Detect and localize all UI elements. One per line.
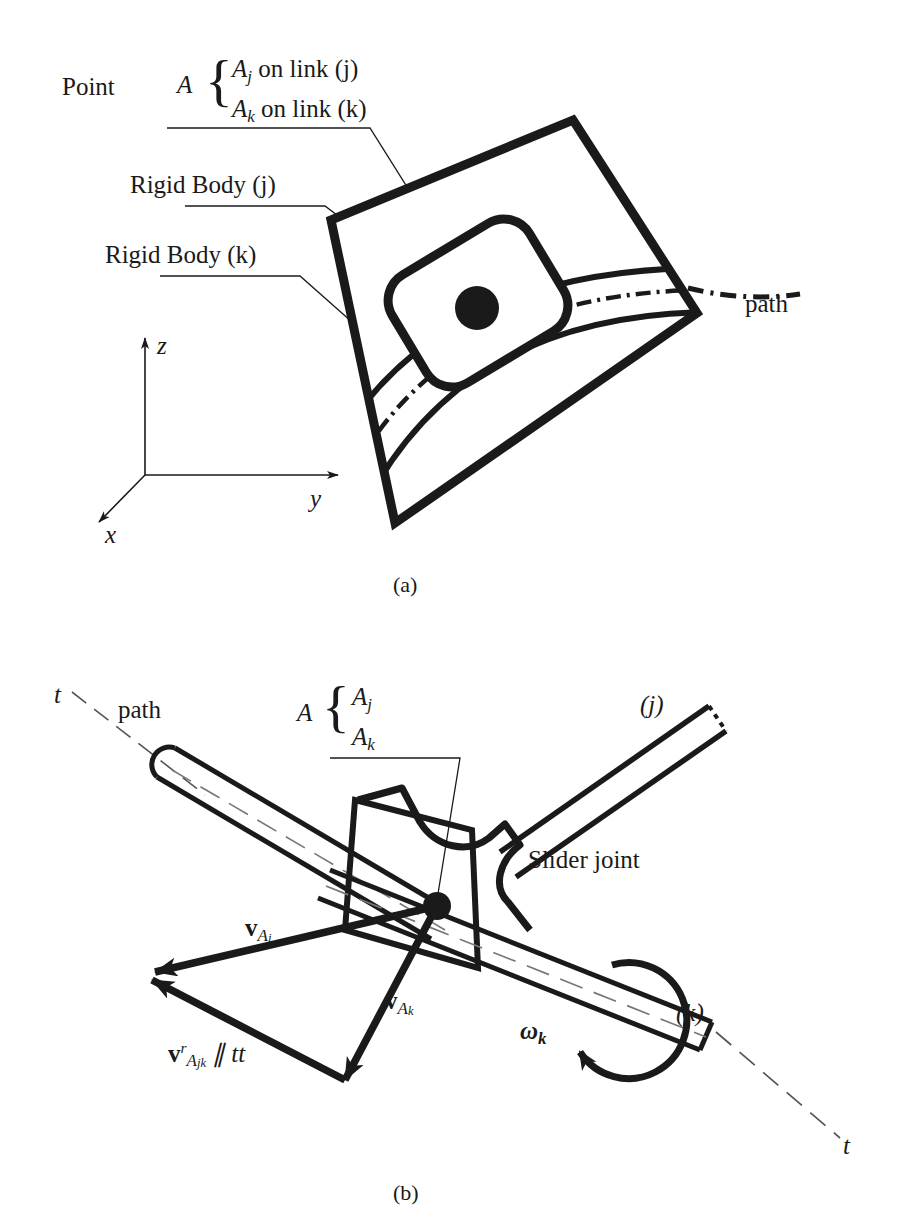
a-j-symbol-b: A [352,683,367,710]
point-brace-b: { [322,678,350,736]
v-ak-symbol: v [385,987,398,1014]
a-k-symbol: A [232,95,247,122]
point-symbol-b: A [297,700,312,725]
v-rel-symbol: v [168,1040,181,1067]
rigid-body-k-label: Rigid Body (k) [105,242,256,267]
point-a-k-line: Ak on link (k) [232,96,367,125]
omega-subscript: k [538,1029,547,1048]
point-brace: { [205,52,233,110]
point-symbol: A [177,72,192,97]
v-rel-subscript2: jk [197,1056,206,1070]
y-axis-label: y [310,486,321,511]
omega-k-arrow [580,963,687,1079]
a-j-subscript-b: j [367,695,372,714]
v-relative-label: vrAjk∥ tt [168,1040,245,1070]
v-aj-subscript: A [258,926,268,945]
figure-canvas: Point A { Aj on link (j) Ak on link (k) … [0,0,908,1224]
path-label-b: path [118,697,161,722]
omega-symbol: ω [520,1017,538,1044]
omega-k-label: ωk [520,1018,547,1047]
path-label-a: path [745,291,788,316]
t-label-left: t [54,682,61,707]
a-k-subscript-b: k [367,735,375,754]
x-axis [99,475,145,522]
rigid-body-j-label: Rigid Body (j) [130,172,276,197]
a-j-symbol: A [232,55,247,82]
v-rel-subscript: A [187,1051,197,1070]
link-k-label: (k) [676,1000,704,1025]
point-a-marker-b [423,892,451,920]
x-axis-label: x [105,522,116,547]
v-aj-symbol: v [245,914,258,941]
z-axis-label: z [157,333,167,358]
v-ak-subscript: A [398,999,408,1018]
panel-b-graphics [72,692,840,1138]
t-label-right: t [843,1133,850,1158]
point-a-j-line: Aj on link (j) [232,56,358,85]
v-ak-label: vAk [385,988,413,1017]
link-j-label: (j) [640,692,664,717]
a-k-rest: on link (k) [255,95,367,122]
point-label: Point [62,74,115,99]
a-k-symbol-b: A [352,723,367,750]
point-a-marker [455,286,499,330]
caption-b: (b) [393,1180,419,1206]
caption-a: (a) [393,572,417,598]
v-aj-subscript2: j [268,931,271,945]
slider-joint-label: Slider joint [528,847,640,872]
a-k-subscript: k [247,107,255,126]
point-a-j-line-b: Aj [352,684,372,713]
point-a-k-line-b: Ak [352,724,375,753]
v-ak-subscript2: k [408,1004,414,1018]
coordinate-axes [99,338,338,522]
a-j-rest: on link (j) [252,55,358,82]
v-aj-label: vAj [245,915,271,944]
v-rel-rest: ∥ tt [212,1040,245,1067]
